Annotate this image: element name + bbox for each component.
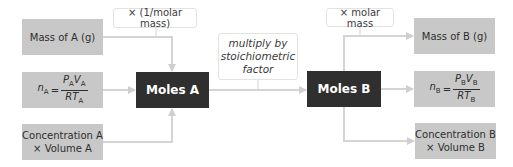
moles-b-label: Moles B	[318, 82, 371, 96]
stoich-line2: stoichiometric	[221, 50, 296, 63]
fraction: PBVB RTB	[453, 73, 480, 106]
concentration-a-box: Concentration A × Volume A	[22, 124, 103, 160]
concentration-b-box: Concentration B × Volume B	[415, 123, 496, 159]
molar-mass-label: × molar mass	[326, 8, 394, 27]
stoichiometric-factor-label: multiply by stoichiometric factor	[218, 33, 298, 80]
subscript: A	[78, 97, 83, 105]
moles-a-label: Moles A	[146, 83, 199, 97]
mass-of-a-label: Mass of A (g)	[30, 31, 95, 44]
subscript: B	[473, 79, 478, 87]
inverse-molar-mass-label: × (1/molar mass)	[113, 8, 197, 28]
v-symbol: V	[74, 74, 81, 85]
equals-sign: =	[443, 83, 451, 96]
v-symbol: V	[466, 73, 473, 84]
moles-b-box: Moles B	[307, 71, 381, 107]
stoich-line1: multiply by	[229, 37, 288, 50]
mass-of-a-box: Mass of A (g)	[22, 19, 103, 55]
rt-symbol: RT	[65, 91, 78, 102]
concentration-b-line2: × Volume B	[426, 141, 485, 154]
ideal-gas-a-equation: nA = PAVA RTA	[38, 74, 88, 107]
concentration-a-line1: Concentration A	[22, 129, 103, 142]
rt-symbol: RT	[457, 90, 470, 101]
mass-of-b-label: Mass of B (g)	[422, 30, 487, 43]
subscript: A	[44, 88, 49, 96]
stoich-line3: factor	[243, 63, 274, 76]
inverse-molar-mass-text: × (1/molar mass)	[114, 7, 196, 29]
fraction: PAVA RTA	[61, 74, 87, 107]
subscript: A	[81, 80, 86, 88]
subscript: B	[436, 87, 441, 95]
equals-sign: =	[51, 84, 59, 97]
mass-of-b-box: Mass of B (g)	[414, 18, 495, 54]
ideal-gas-b-equation: nB = PBVB RTB	[429, 73, 479, 106]
subscript: B	[470, 96, 475, 104]
ideal-gas-b-box: nB = PBVB RTB	[414, 71, 495, 107]
molar-mass-text: × molar mass	[327, 7, 393, 29]
concentration-a-line2: × Volume A	[33, 142, 92, 155]
ideal-gas-a-box: nA = PAVA RTA	[22, 72, 103, 108]
concentration-b-line1: Concentration B	[415, 128, 496, 141]
moles-a-box: Moles A	[136, 72, 209, 108]
